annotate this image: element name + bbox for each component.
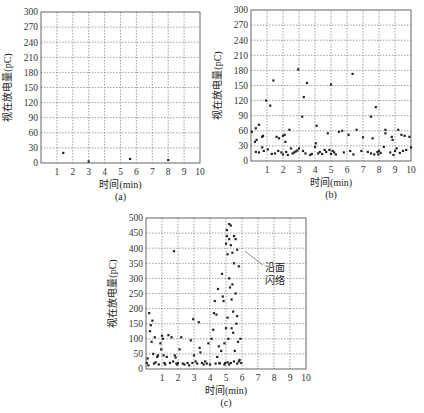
data-point [330,153,332,155]
y-tick-label: 450 [129,228,144,238]
x-tick-label: 3 [86,167,91,177]
data-point [367,151,369,153]
data-point [237,341,239,343]
data-point [400,134,402,136]
data-point [391,136,393,138]
data-point [356,129,358,131]
x-tick-label: 10 [406,165,416,175]
data-point [343,151,345,153]
data-point [341,130,343,132]
data-point [154,336,156,338]
data-point [333,151,335,153]
x-tick-labels: 12345678910 [160,373,311,383]
data-point [151,341,153,343]
data-point [397,129,399,131]
data-point [232,332,234,334]
data-point [370,116,372,118]
data-point [338,131,340,133]
data-point [348,134,350,136]
data-point [162,338,164,340]
data-point [227,361,229,363]
x-tick-label: 10 [301,373,311,383]
data-point [203,363,205,365]
data-point [352,153,354,155]
x-tick-label: 4 [102,167,107,177]
data-point [231,252,233,254]
y-tick-label: 300 [234,5,249,15]
data-point [239,338,241,340]
x-tick-label: 10 [195,167,205,177]
data-point [408,136,410,138]
data-point [164,363,166,365]
data-point [229,286,231,288]
data-point [254,141,256,143]
data-point [287,154,289,156]
data-point [284,134,286,136]
grid [146,218,306,369]
data-point [288,129,290,131]
y-axis-label: 视在放电量(pC) [1,53,14,121]
data-point [227,338,229,340]
data-point [223,300,225,302]
x-tick-label: 9 [393,165,398,175]
data-point [206,362,208,364]
data-point [180,336,182,338]
data-point [204,360,206,362]
data-point [297,68,299,70]
y-tick-label: 500 [129,213,144,223]
y-tick-label: 210 [234,51,249,61]
data-point [199,347,201,349]
x-tick-label: 5 [329,165,334,175]
data-point [360,150,362,152]
data-point [216,356,218,358]
data-point [362,136,364,138]
chart-b: 123456789100306090120150180210240270300时… [211,5,416,201]
data-point [191,362,193,364]
data-point [380,152,382,154]
y-tick-label: 150 [234,81,249,91]
data-point [239,359,241,361]
x-tick-label: 3 [192,373,197,383]
x-tick-label: 1 [265,165,270,175]
data-point [151,320,153,322]
y-axis-label: 视在放电量(pC) [211,51,224,119]
data-point [215,362,217,364]
y-tick-label: 50 [134,349,144,359]
data-point [327,132,329,134]
data-point [198,321,200,323]
y-tick-label: 200 [129,304,144,314]
data-point [188,364,190,366]
data-point [284,141,286,143]
data-point [221,273,223,275]
data-point [179,348,181,350]
y-tick-label: 300 [129,274,144,284]
x-tick-label: 2 [70,167,75,177]
data-point [174,354,176,356]
data-point [212,329,214,331]
data-point [214,300,216,302]
chart-a: 123456789100306090120150180210240270300时… [1,7,205,203]
data-point [183,363,185,365]
data-point [149,330,151,332]
x-tick-label: 7 [150,167,155,177]
data-point [236,249,238,251]
subfigure-label: (a) [115,191,126,203]
data-point [223,363,225,365]
data-point [290,147,292,149]
y-tick-label: 350 [129,259,144,269]
y-tick-label: 120 [24,98,39,108]
y-tick-labels: 0306090120150180210240270300 [24,7,39,168]
x-tick-label: 2 [176,373,181,383]
data-point [321,153,323,155]
data-point [169,362,171,364]
data-point [262,135,264,137]
data-point [233,235,235,237]
data-point [196,362,198,364]
data-point [172,360,174,362]
x-tick-label: 1 [160,373,165,383]
x-tick-label: 7 [361,165,366,175]
y-tick-label: 0 [138,364,143,374]
data-point [175,356,177,358]
data-point [232,311,234,313]
data-point [233,262,235,264]
